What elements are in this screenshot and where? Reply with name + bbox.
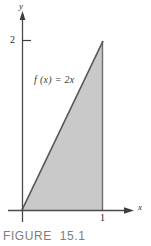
function-equation-label: f (x) = 2x	[34, 75, 75, 85]
x-axis-arrowhead	[124, 207, 134, 213]
x-axis-label: x	[138, 203, 142, 212]
y-axis-label: y	[19, 2, 23, 11]
y-axis-arrowhead	[20, 11, 26, 20]
figure-caption: FIGURE 15.1	[3, 229, 86, 243]
figure-container: y x 2 1 f (x) = 2x FIGURE 15.1	[0, 0, 151, 246]
plot-area	[0, 0, 151, 246]
x-tick-label-1: 1	[100, 213, 105, 223]
y-tick-label-2: 2	[10, 35, 15, 45]
